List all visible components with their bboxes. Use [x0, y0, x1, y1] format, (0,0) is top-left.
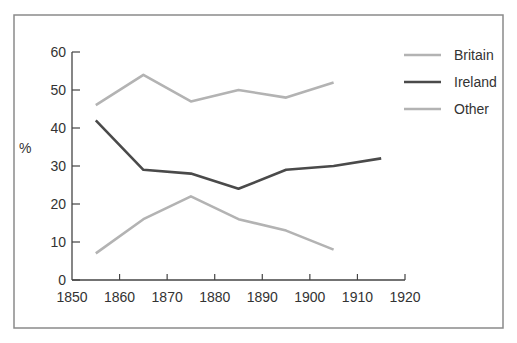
y-tick-label: 10: [50, 234, 66, 250]
x-tick-label: 1900: [294, 289, 325, 305]
y-tick-label: 50: [50, 82, 66, 98]
line-chart: 0102030405060185018601870188018901900191…: [0, 0, 517, 343]
x-tick-label: 1870: [152, 289, 183, 305]
x-tick-label: 1890: [247, 289, 278, 305]
legend-label-ireland: Ireland: [454, 74, 497, 90]
x-tick-label: 1880: [199, 289, 230, 305]
y-tick-label: 20: [50, 196, 66, 212]
y-tick-label: 60: [50, 44, 66, 60]
x-tick-label: 1910: [342, 289, 373, 305]
x-tick-label: 1920: [389, 289, 420, 305]
x-tick-label: 1860: [104, 289, 135, 305]
y-tick-label: 40: [50, 120, 66, 136]
chart-frame: [14, 15, 503, 328]
legend-label-britain: Britain: [454, 47, 494, 63]
y-axis-label: %: [19, 140, 31, 156]
y-tick-label: 30: [50, 158, 66, 174]
y-tick-label: 0: [58, 272, 66, 288]
legend-label-other: Other: [454, 101, 489, 117]
x-tick-label: 1850: [56, 289, 87, 305]
